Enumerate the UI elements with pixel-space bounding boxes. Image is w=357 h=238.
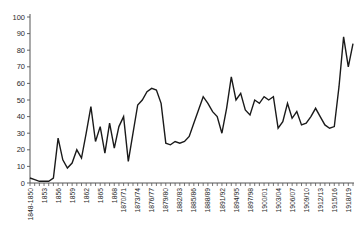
x-tick-label: 1900/01 [261, 188, 268, 213]
x-tick-label: 1885/86 [190, 188, 197, 213]
x-tick-label: 1873/74 [134, 188, 141, 213]
line-chart: 01020304050607080901001848-1850185318561… [0, 0, 357, 238]
y-tick-label: 60 [17, 79, 25, 88]
x-tick-label: 1906/07 [289, 188, 296, 213]
data-line [30, 37, 353, 181]
x-tick-label: 1888/89 [204, 188, 211, 213]
x-tick-label: 1853 [41, 188, 48, 203]
x-tick-label: 1862 [83, 188, 90, 203]
y-tick-label: 90 [17, 29, 25, 38]
y-tick-label: 80 [17, 46, 25, 55]
x-tick-label: 1856 [55, 188, 62, 203]
x-tick-label: 1918/19 [345, 188, 352, 213]
x-tick-label: 1894/95 [233, 188, 240, 213]
chart-container: 01020304050607080901001848-1850185318561… [0, 0, 357, 238]
x-tick-label: 1897/98 [247, 188, 254, 213]
x-tick-label: 1848-1850 [27, 188, 34, 221]
y-tick-label: 40 [17, 112, 25, 121]
y-tick-label: 20 [17, 145, 25, 154]
x-tick-label: 1912/13 [317, 188, 324, 213]
x-tick-label: 1865 [97, 188, 104, 203]
y-tick-label: 30 [17, 129, 25, 138]
x-tick-label: 1868 [111, 188, 118, 203]
x-tick-label: 1876/77 [148, 188, 155, 213]
x-tick-label: 1909/10 [303, 188, 310, 213]
x-tick-label: 1882/83 [176, 188, 183, 213]
y-tick-label: 100 [12, 13, 25, 22]
x-tick-label: 1879/80 [162, 188, 169, 213]
y-tick-label: 10 [17, 162, 25, 171]
x-tick-label: 1891/92 [219, 188, 226, 213]
y-tick-label: 0 [21, 179, 25, 188]
x-tick-label: 1870/71 [120, 188, 127, 213]
x-tick-label: 1915/16 [331, 188, 338, 213]
y-tick-label: 50 [17, 96, 25, 105]
x-tick-label: 1859 [69, 188, 76, 203]
x-tick-label: 1903/04 [275, 188, 282, 213]
y-tick-label: 70 [17, 62, 25, 71]
